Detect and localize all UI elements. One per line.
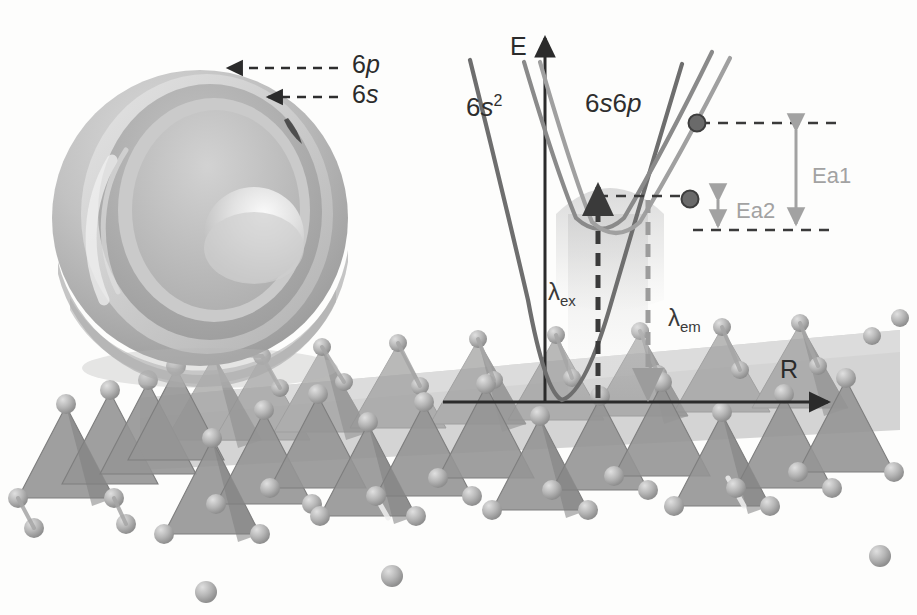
transition-label-emission: λem — [668, 304, 701, 335]
shell-label-6p: 6p — [352, 50, 380, 79]
activation-energy-label-ea1: Ea1 — [812, 163, 851, 189]
cutaway-shell-sphere — [52, 70, 348, 388]
transition-label-excitation: λex — [548, 278, 576, 309]
crossing-point-upper — [689, 115, 706, 132]
curve-label-6s6p: 6s6p — [585, 88, 641, 119]
crossing-point-lower — [682, 191, 699, 208]
figure-artwork — [0, 0, 917, 615]
axis-label-energy: E — [510, 32, 527, 61]
figure-canvas: rm in in sn tt on nn n rt ti nt t n in l… — [0, 0, 917, 615]
shell-label-6s: 6s — [352, 80, 378, 109]
activation-energy-label-ea2: Ea2 — [736, 198, 775, 224]
axis-label-coordinate: R — [780, 355, 798, 384]
curve-label-6s2: 6s2 — [466, 92, 502, 123]
